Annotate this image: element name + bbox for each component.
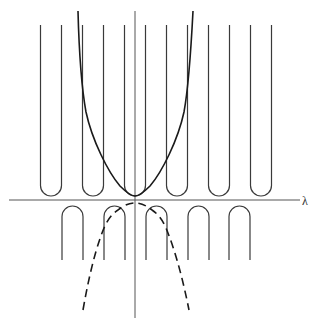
lower-arch-2 <box>104 206 125 260</box>
lambda-axis-label: λ <box>302 195 308 207</box>
upper-well-1 <box>41 25 62 196</box>
upper-wells-group <box>41 25 272 196</box>
upper-well-6 <box>251 25 272 196</box>
upper-well-5 <box>209 25 230 196</box>
lower-arch-4 <box>188 206 209 260</box>
dashed-downward-curve <box>83 203 189 310</box>
lower-arches-group <box>62 206 250 260</box>
lower-arch-3 <box>146 206 167 260</box>
lower-arch-5 <box>229 206 250 260</box>
lower-arch-1 <box>62 206 83 260</box>
band-diagram <box>0 0 322 330</box>
